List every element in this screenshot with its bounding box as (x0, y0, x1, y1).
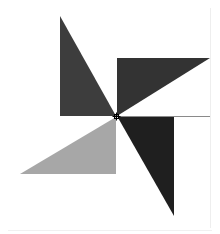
pinwheel-canvas (0, 0, 220, 234)
